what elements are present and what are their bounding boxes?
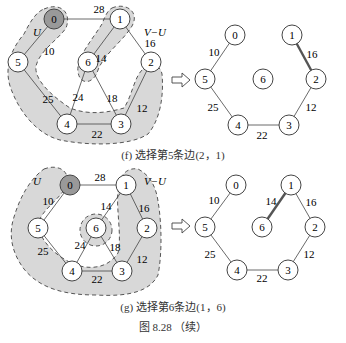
svg-text:U: U — [33, 26, 42, 38]
mst-node-4: 4 — [227, 260, 247, 280]
svg-text:V−U: V−U — [144, 26, 167, 38]
node-6: 6 — [86, 218, 106, 238]
svg-text:0: 0 — [232, 29, 238, 41]
mst-node-6: 6 — [252, 217, 272, 237]
mst-node-5: 5 — [195, 69, 215, 89]
svg-text:6: 6 — [93, 222, 99, 234]
svg-text:16: 16 — [307, 48, 319, 60]
node-5: 5 — [28, 218, 48, 238]
svg-text:22: 22 — [257, 129, 268, 141]
node-4: 4 — [62, 261, 82, 281]
svg-text:10: 10 — [209, 194, 221, 206]
node-5: 5 — [8, 52, 28, 72]
svg-text:6: 6 — [85, 56, 91, 68]
node-1: 1 — [110, 9, 130, 29]
mst-node-3: 3 — [279, 115, 299, 135]
mst-node-6: 6 — [253, 69, 273, 89]
svg-text:1: 1 — [289, 29, 295, 41]
svg-text:3: 3 — [118, 118, 124, 130]
svg-text:25: 25 — [38, 245, 50, 257]
svg-text:1: 1 — [288, 179, 294, 191]
svg-text:3: 3 — [285, 264, 291, 276]
svg-text:4: 4 — [235, 119, 241, 131]
node-2: 2 — [141, 52, 161, 72]
mst-node-3: 3 — [278, 260, 298, 280]
svg-text:10: 10 — [43, 195, 55, 207]
svg-text:0: 0 — [67, 179, 73, 191]
svg-text:22: 22 — [92, 273, 103, 285]
svg-text:2: 2 — [148, 56, 154, 68]
svg-text:22: 22 — [257, 272, 268, 284]
svg-text:25: 25 — [43, 93, 55, 105]
figure-title: 图 8.28 （续） — [0, 318, 346, 334]
caption-f: (f) 选择第5条边(2，1) — [0, 146, 346, 162]
double-arrow-right-icon — [172, 219, 190, 233]
svg-text:25: 25 — [208, 101, 220, 113]
svg-text:10: 10 — [209, 46, 221, 58]
svg-text:16: 16 — [145, 37, 157, 49]
svg-text:5: 5 — [15, 56, 21, 68]
svg-text:4: 4 — [69, 265, 75, 277]
mst-node-2: 2 — [306, 69, 326, 89]
svg-text:U: U — [33, 175, 42, 187]
svg-text:10: 10 — [44, 45, 56, 57]
svg-text:V−U: V−U — [144, 175, 167, 187]
svg-text:3: 3 — [286, 119, 292, 131]
svg-text:12: 12 — [306, 101, 317, 113]
svg-text:2: 2 — [312, 221, 318, 233]
svg-text:0: 0 — [51, 13, 57, 25]
svg-text:28: 28 — [95, 171, 107, 183]
svg-text:18: 18 — [107, 92, 119, 104]
node-4: 4 — [57, 114, 77, 134]
svg-text:6: 6 — [259, 221, 265, 233]
node-3: 3 — [112, 261, 132, 281]
svg-text:16: 16 — [306, 196, 318, 208]
node-3: 3 — [111, 114, 131, 134]
svg-text:6: 6 — [260, 73, 266, 85]
svg-text:24: 24 — [73, 91, 85, 103]
mst-node-1: 1 — [282, 25, 302, 45]
svg-text:0: 0 — [233, 179, 239, 191]
mst-node-4: 4 — [228, 115, 248, 135]
svg-text:5: 5 — [202, 73, 208, 85]
node-2: 2 — [137, 218, 157, 238]
svg-text:14: 14 — [266, 195, 278, 207]
svg-text:1: 1 — [123, 179, 129, 191]
svg-text:18: 18 — [110, 241, 122, 253]
svg-text:3: 3 — [119, 265, 125, 277]
node-0: 0 — [60, 175, 80, 195]
svg-text:12: 12 — [137, 102, 148, 114]
mst-node-1: 1 — [281, 175, 301, 195]
svg-text:25: 25 — [205, 248, 217, 260]
double-arrow-right-icon — [172, 73, 190, 87]
mst-node-5: 5 — [195, 217, 215, 237]
svg-text:14: 14 — [101, 200, 113, 212]
svg-text:12: 12 — [137, 253, 148, 265]
mst-node-2: 2 — [305, 217, 325, 237]
svg-text:4: 4 — [64, 118, 70, 130]
figure-canvas: 0 1 5 6 2 4 3 28 10 14 16 25 24 18 12 22… — [0, 0, 346, 343]
svg-text:24: 24 — [75, 239, 87, 251]
svg-text:1: 1 — [117, 13, 123, 25]
mst-node-0: 0 — [226, 175, 246, 195]
svg-text:4: 4 — [234, 264, 240, 276]
node-0: 0 — [44, 9, 64, 29]
node-1: 1 — [116, 175, 136, 195]
svg-text:22: 22 — [92, 128, 103, 140]
panel-g: 0 1 5 6 2 4 3 28 10 14 16 25 24 18 12 22… — [11, 167, 325, 295]
svg-text:5: 5 — [202, 221, 208, 233]
panel-f: 0 1 5 6 2 4 3 28 10 14 16 25 24 18 12 22… — [8, 3, 326, 144]
caption-g: (g) 选择第6条边(1，6) — [0, 298, 346, 314]
svg-text:12: 12 — [304, 248, 315, 260]
svg-text:2: 2 — [144, 222, 150, 234]
svg-text:28: 28 — [94, 3, 106, 15]
svg-text:2: 2 — [313, 73, 319, 85]
mst-node-0: 0 — [225, 25, 245, 45]
svg-text:14: 14 — [96, 52, 108, 64]
svg-text:16: 16 — [139, 202, 151, 214]
svg-text:5: 5 — [35, 222, 41, 234]
